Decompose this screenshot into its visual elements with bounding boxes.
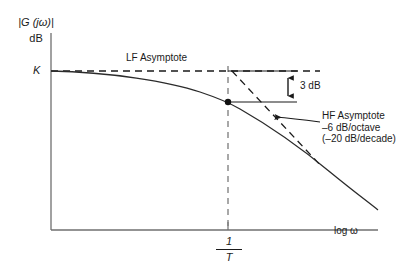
y-axis-label-main: |G (jω)|: [18, 16, 54, 28]
y-axis-tick-label-k: K: [33, 64, 40, 77]
hf-asymptote-title: HF Asymptote: [322, 110, 396, 122]
three-db-label: 3 dB: [300, 80, 321, 92]
lf-asymptote-label: LF Asymptote: [126, 52, 187, 64]
hf-asymptote-decade: (–20 dB/decade): [322, 133, 396, 145]
hf-asymptote-octave: –6 dB/octave: [322, 122, 396, 134]
hf-asymptote-leader-line: [275, 117, 320, 122]
x-axis-tick-label-corner-frequency: 1 T: [216, 235, 242, 263]
corner-frequency-point-marker: [225, 99, 231, 105]
corner-frequency-numerator: 1: [216, 235, 242, 249]
y-axis-label-unit: dB: [14, 32, 58, 45]
x-axis-label: log ω: [334, 225, 358, 237]
bode-plot-figure: |G (jω)| dB K LF Asymptote 3 dB HF Asymp…: [0, 0, 414, 275]
hf-asymptote-label: HF Asymptote –6 dB/octave (–20 dB/decade…: [322, 110, 396, 145]
corner-frequency-denominator: T: [216, 249, 242, 264]
y-axis-label: |G (jω)| dB: [14, 16, 58, 44]
